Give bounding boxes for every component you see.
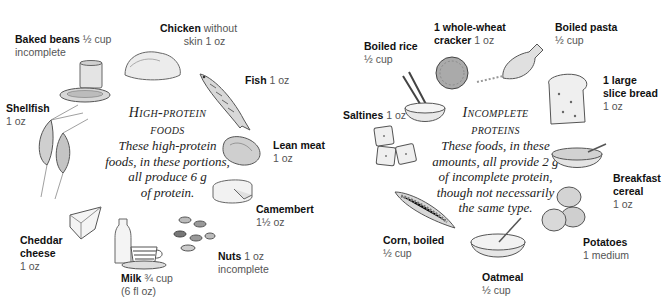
label-milk: Milk ¾ cup (6 fl oz): [121, 272, 173, 298]
label-bread: 1 large slice bread 1 oz: [603, 74, 658, 113]
oatmeal-icon: [469, 218, 529, 263]
label-camembert: Camembert 1½ oz: [256, 203, 314, 229]
label-saltines: Saltines 1 oz: [343, 109, 406, 122]
cheddar-cheese-icon: [67, 205, 105, 243]
incomplete-proteins-panel: Incomplete proteins These foods, in thes…: [333, 0, 666, 303]
panel-title: Incomplete: [462, 105, 528, 120]
label-cheddar-cheese: Cheddar cheese 1 oz: [20, 234, 63, 273]
boiled-pasta-icon: [473, 42, 548, 87]
label-potatoes: Potatoes 1 medium: [583, 236, 629, 262]
milk-icon: [113, 215, 168, 270]
saltines-icon: [373, 125, 418, 170]
label-lean-meat: Lean meat 1 oz: [273, 139, 325, 165]
nuts-icon: [170, 212, 220, 257]
breakfast-cereal-icon: [548, 142, 608, 177]
label-boiled-rice: Boiled rice ½ cup: [364, 40, 418, 66]
label-boiled-pasta: Boiled pasta ½ cup: [555, 21, 617, 47]
fish-icon: [196, 70, 256, 135]
whole-wheat-cracker-icon: [434, 55, 470, 91]
panel-title: High-protein: [129, 105, 206, 120]
panel-subtitle: proteins: [471, 122, 520, 137]
corn-icon: [391, 188, 461, 233]
baked-beans-icon: [58, 60, 113, 105]
label-nuts: Nuts 1 oz incomplete: [218, 250, 269, 276]
lean-meat-icon: [220, 133, 265, 168]
chicken-icon: [120, 45, 185, 83]
bread-slice-icon: [543, 72, 591, 128]
panel-subtitle: foods: [150, 122, 184, 137]
camembert-icon: [210, 175, 255, 207]
label-baked-beans: Baked beans ½ cup incomplete: [15, 33, 111, 59]
label-corn-boiled: Corn, boiled ½ cup: [383, 234, 444, 260]
shellfish-icon: [33, 105, 88, 200]
label-breakfast-cereal: Breakfast cereal 1 oz: [613, 172, 661, 211]
potatoes-icon: [541, 185, 593, 235]
high-protein-panel: High-protein foods These high-protein fo…: [0, 0, 333, 303]
label-oatmeal: Oatmeal ½ cup: [482, 271, 523, 297]
